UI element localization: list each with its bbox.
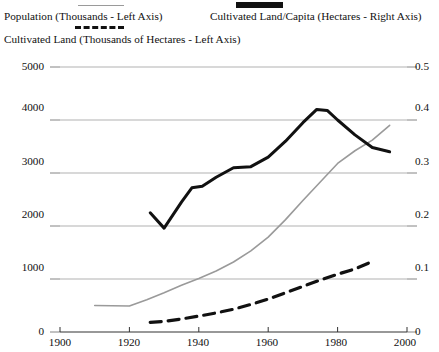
y-axis-label-right-0: 0.5 [415,61,439,72]
x-axis-label-0: 1900 [37,337,83,348]
y-axis-label-left-1: 4000 [2,102,44,113]
y-axis-label-right-4: 0.1 [415,262,439,273]
y-axis-label-left-3: 2000 [2,209,44,220]
y-axis-label-left-4: 1000 [2,262,44,273]
x-axis-label-4: 1980 [313,337,359,348]
y-axis-label-right-5: 0 [415,326,439,337]
y-axis-label-right-1: 0.4 [415,102,439,113]
y-axis-label-right-3: 0.2 [415,209,439,220]
chart-axis-ticks [60,327,407,332]
chart-canvas [0,0,439,352]
chart-series-group [95,109,390,322]
y-axis-label-left-2: 3000 [2,156,44,167]
x-axis-label-2: 1940 [175,337,221,348]
y-axis-label-right-2: 0.3 [415,156,439,167]
chart-series-line-1 [150,262,372,323]
x-axis-label-3: 1960 [244,337,290,348]
x-axis-label-5: 2000 [382,337,428,348]
chart-series-line-2 [150,109,389,228]
y-axis-label-left-0: 5000 [2,61,44,72]
x-axis-label-1: 1920 [106,337,152,348]
y-axis-label-left-5: 0 [2,326,44,337]
chart-gridlines [50,67,417,332]
chart-plot-area: 5000 4000 3000 2000 1000 0 0.5 0.4 0.3 0… [0,0,439,352]
